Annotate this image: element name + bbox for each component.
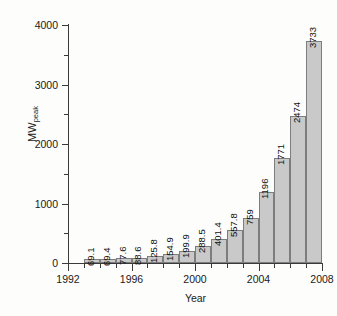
bar-value-label: 88.6: [133, 246, 143, 265]
bar-chart-figure: MWpeak 01000200030004000 199219962000200…: [0, 0, 337, 316]
x-tick-label: 2000: [170, 274, 220, 285]
x-tick-minor: [211, 264, 212, 268]
bar: [259, 192, 275, 263]
bar-value-label: 401.4: [213, 222, 223, 246]
x-tick-major: [322, 264, 323, 271]
bar-value-label: 2474: [292, 102, 302, 123]
y-axis-title-subscript: peak: [31, 106, 40, 122]
y-tick-label: 1000: [0, 199, 58, 209]
bar-value-label: 288.5: [197, 229, 207, 253]
x-tick-minor: [163, 264, 164, 268]
x-tick-minor: [290, 264, 291, 268]
y-axis-title: MWpeak: [26, 84, 38, 164]
bar: [306, 41, 322, 263]
bar-value-label: 199.9: [181, 234, 191, 258]
bar: [290, 116, 306, 263]
x-axis-title: Year: [68, 292, 323, 304]
y-tick-label: 3000: [0, 80, 58, 90]
bar-value-label: 125.8: [149, 239, 159, 263]
x-tick-major: [68, 264, 69, 271]
bar-value-label: 557.8: [229, 213, 239, 237]
x-tick-label: 2004: [234, 274, 284, 285]
x-tick-minor: [243, 264, 244, 268]
bar-value-label: 759: [245, 209, 255, 225]
bar-value-label: 154.9: [165, 237, 175, 261]
x-tick-minor: [179, 264, 180, 268]
x-tick-label: 2008: [297, 274, 337, 285]
y-tick-label: 4000: [0, 20, 58, 30]
x-tick-minor: [227, 264, 228, 268]
x-tick-major: [195, 264, 196, 271]
x-tick-minor: [306, 264, 307, 268]
x-tick-minor: [274, 264, 275, 268]
bar-value-label: 3733: [308, 27, 318, 48]
y-tick-label: 2000: [0, 139, 58, 149]
x-tick-label: 1996: [107, 274, 157, 285]
bar-value-label: 69.4: [102, 247, 112, 266]
bar: [274, 158, 290, 263]
plot-area: 69.169.477.688.6125.8154.9199.9288.5401.…: [68, 25, 322, 263]
x-tick-label: 1992: [43, 274, 93, 285]
x-tick-major: [132, 264, 133, 271]
x-tick-minor: [147, 264, 148, 268]
bar-value-label: 77.6: [118, 247, 128, 266]
bar-value-label: 69.1: [86, 247, 96, 266]
bar-value-label: 1771: [276, 143, 286, 164]
x-tick-major: [259, 264, 260, 271]
y-tick-label: 0: [0, 258, 58, 268]
bar-value-label: 1196: [260, 178, 270, 198]
